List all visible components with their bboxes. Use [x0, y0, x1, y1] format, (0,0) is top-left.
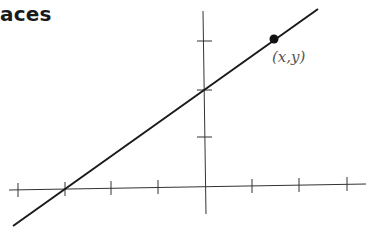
coordinate-plane-diagram: (x,y)	[0, 0, 372, 243]
x-axis	[9, 177, 366, 197]
point-label: (x,y)	[272, 48, 306, 66]
point-marker	[270, 35, 279, 44]
y-axis	[197, 11, 212, 214]
